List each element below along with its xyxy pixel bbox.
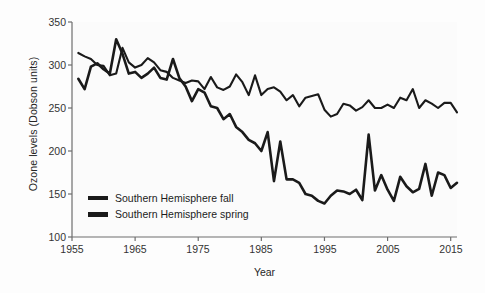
legend-item-fall: Southern Hemisphere fall: [88, 192, 233, 204]
legend-swatch-fall: [88, 196, 108, 200]
legend-label-fall: Southern Hemisphere fall: [115, 192, 233, 204]
legend-item-spring: Southern Hemisphere spring: [88, 208, 249, 220]
legend-label-spring: Southern Hemisphere spring: [115, 208, 249, 220]
plot-background: [72, 22, 457, 237]
plot-canvas: [0, 0, 485, 293]
legend-swatch-spring: [88, 212, 108, 217]
ozone-line-chart: Ozone levels (Dobson units) 350 300 250 …: [0, 0, 485, 293]
